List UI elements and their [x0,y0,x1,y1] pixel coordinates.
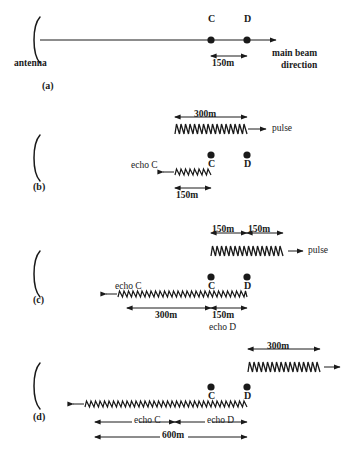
point-c-label-c: C [208,280,215,291]
panel-d-graphics [34,349,340,437]
dim-600-label-d: 600m [162,430,184,440]
main-beam-label-line2: direction [281,60,317,70]
echo-wave-c [118,291,247,297]
point-c-label-d: C [208,390,215,401]
pulse-wave-c [211,246,283,256]
radar-pulse-echo-figure: C D 150m main beam direction antenna (a)… [0,0,355,452]
dim-150-label-b: 150m [176,190,198,200]
pulse-wave-b [175,124,247,134]
point-d-label-a: D [244,13,251,24]
dim-150-label-a: 150m [212,58,234,68]
dim-300-label-b: 300m [194,109,216,119]
panel-a-graphics [34,17,276,63]
dim-300-label-d: 300m [267,341,289,351]
point-c-dot-a [207,36,214,43]
point-c-label-a: C [208,13,215,24]
dim-300-label-c: 300m [155,310,177,320]
echo-wave-d [85,401,247,407]
panel-label-d: (d) [33,411,45,422]
antenna-bracket-b [34,135,40,181]
echo-c-label-b: echo C [131,160,158,170]
point-d-label-d: D [244,390,251,401]
point-c-label-b: C [208,158,215,169]
echo-c-label-d: echo C [134,415,161,425]
antenna-label: antenna [14,58,47,68]
panel-label-b: (b) [33,181,45,192]
antenna-bracket-a [34,17,40,63]
echo-c-wave-b [175,169,211,175]
dim-150-bottom-label-c: 150m [212,310,234,320]
echo-c-label-c: echo C [115,281,142,291]
panel-label-c: (c) [33,294,44,305]
panel-c-graphics [34,233,303,308]
echo-d-label-c: echo D [209,322,236,332]
dim-150-left-label-c: 150m [212,224,234,234]
panel-b-graphics [34,117,266,188]
main-beam-label-line1: main beam [272,48,317,58]
point-d-label-c: D [244,280,251,291]
dim-150-right-label-c: 150m [248,224,270,234]
point-d-dot-a [243,36,250,43]
pulse-label-b: pulse [272,123,292,133]
antenna-bracket-c [34,251,40,297]
echo-d-label-d: echo D [207,415,234,425]
point-d-label-b: D [244,158,251,169]
pulse-label-c: pulse [308,245,328,255]
antenna-bracket-d [34,363,40,409]
panel-label-a: (a) [42,80,54,91]
pulse-wave-d [248,362,320,372]
